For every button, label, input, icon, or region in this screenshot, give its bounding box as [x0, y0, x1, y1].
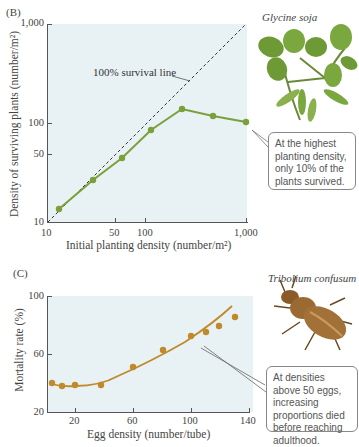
x-tick-20-c: 20 — [69, 415, 80, 426]
x-tick-60-c: 60 — [127, 415, 138, 426]
x-tick-100: 100 — [137, 227, 153, 238]
species-label-b: Glycine soja — [262, 11, 317, 23]
y-tick-1000: 1,000 — [20, 17, 44, 28]
y-tick-60-c: 60 — [34, 348, 45, 359]
panel-b-chart — [0, 0, 359, 250]
tribolium-confusum-illustration — [274, 276, 352, 350]
survival-line-label: 100% survival line — [93, 66, 176, 78]
y-tick-10: 10 — [34, 216, 45, 227]
y-axis-title-b: Density of surviving plants (number/m²) — [8, 24, 20, 224]
x-tick-50: 50 — [109, 227, 120, 238]
y-axis-title-c: Mortality rate (%) — [13, 290, 25, 410]
x-tick-140-c: 140 — [240, 415, 256, 426]
glycine-soja-illustration — [255, 24, 359, 123]
x-tick-1000: 1,000 — [234, 227, 258, 238]
callout-c: At densities above 50 eggs, increasing p… — [266, 366, 358, 432]
species-label-c: Tribolium confusum — [268, 272, 356, 284]
y-tick-20-c: 20 — [34, 406, 45, 417]
plot-area-c — [48, 296, 253, 412]
y-tick-100: 100 — [28, 117, 44, 128]
y-tick-100-c: 100 — [28, 290, 44, 301]
x-tick-100-c: 100 — [182, 415, 198, 426]
callout-b: At the highest planting density, only 10… — [268, 132, 356, 190]
x-tick-10: 10 — [41, 227, 52, 238]
x-axis-title-c: Egg density (number/tube) — [87, 428, 210, 440]
y-tick-50: 50 — [34, 148, 45, 159]
